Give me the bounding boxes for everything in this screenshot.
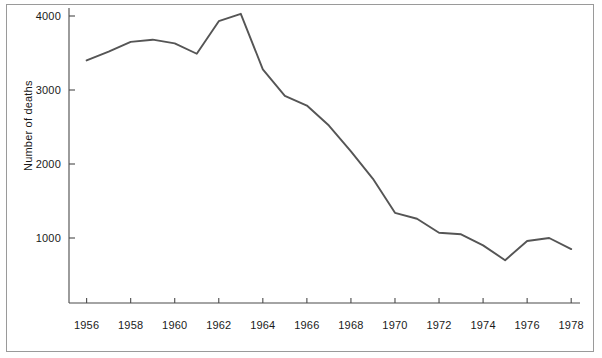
y-axis-ticks xyxy=(69,16,75,238)
x-tick-label-1968: 1968 xyxy=(338,319,363,331)
x-tick-label-1976: 1976 xyxy=(514,319,539,331)
x-tick-label-1972: 1972 xyxy=(426,319,451,331)
x-tick-label-1970: 1970 xyxy=(382,319,407,331)
y-tick-label-2000: 2000 xyxy=(29,158,61,170)
x-tick-label-1964: 1964 xyxy=(250,319,275,331)
x-tick-label-1960: 1960 xyxy=(162,319,187,331)
x-tick-label-1956: 1956 xyxy=(74,319,99,331)
data-line-0 xyxy=(87,14,572,260)
x-tick-label-1978: 1978 xyxy=(559,319,584,331)
line-chart-canvas xyxy=(0,0,602,358)
y-tick-label-3000: 3000 xyxy=(29,84,61,96)
y-tick-label-1000: 1000 xyxy=(29,232,61,244)
x-tick-label-1974: 1974 xyxy=(470,319,495,331)
figure: Number of deaths 19561958196019621964196… xyxy=(0,0,602,358)
y-tick-label-4000: 4000 xyxy=(29,10,61,22)
x-tick-label-1962: 1962 xyxy=(206,319,231,331)
data-series-group xyxy=(87,14,572,260)
x-tick-label-1966: 1966 xyxy=(294,319,319,331)
x-tick-label-1958: 1958 xyxy=(118,319,143,331)
x-axis-ticks xyxy=(87,298,572,303)
